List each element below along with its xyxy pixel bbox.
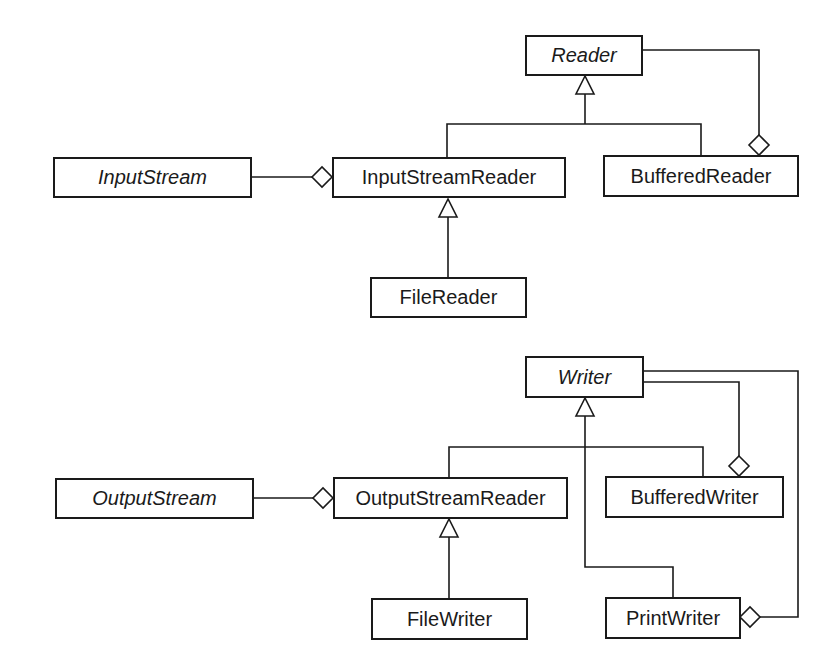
class-reader: Reader — [525, 35, 643, 76]
class-filereader: FileReader — [370, 277, 527, 318]
aggregation-diamond-icon — [313, 488, 333, 508]
generalization-arrow-icon — [576, 398, 594, 416]
aggregation-diamond-icon — [312, 167, 332, 187]
generalization-arrow-icon — [439, 199, 457, 217]
generalization-filewriter-outputstreamreader — [440, 519, 458, 598]
aggregation-diamond-icon — [740, 607, 760, 627]
generalization-arrow-icon — [576, 76, 594, 94]
aggregation-inputstreamreader-inputstream — [251, 167, 332, 187]
relationship-lines — [0, 0, 836, 672]
generalization-arrow-icon — [440, 519, 458, 537]
aggregation-bufferedreader-reader — [642, 50, 769, 155]
class-printwriter: PrintWriter — [605, 597, 741, 639]
class-inputstream: InputStream — [53, 157, 252, 198]
aggregation-bufferedwriter-writer — [643, 382, 749, 476]
class-outputstream: OutputStream — [55, 478, 254, 519]
class-bufferedreader: BufferedReader — [603, 155, 799, 197]
aggregation-diamond-icon — [749, 135, 769, 155]
class-bufferedwriter: BufferedWriter — [605, 476, 784, 518]
generalization-to-reader — [447, 76, 701, 157]
aggregation-outputstreamreader-outputstream — [253, 488, 333, 508]
aggregation-diamond-icon — [729, 456, 749, 476]
class-inputstreamreader: InputStreamReader — [332, 157, 566, 198]
generalization-filereader-inputstreamreader — [439, 199, 457, 277]
uml-class-diagram: Reader InputStream InputStreamReader Buf… — [0, 0, 836, 672]
class-filewriter: FileWriter — [371, 598, 528, 640]
class-writer: Writer — [525, 356, 644, 398]
class-outputstreamreader: OutputStreamReader — [333, 477, 568, 519]
